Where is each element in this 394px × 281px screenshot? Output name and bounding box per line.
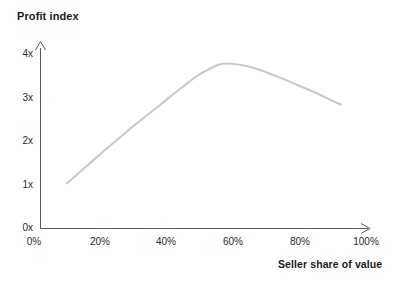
profit-curve — [67, 64, 341, 184]
x-tick-label-40: 40% — [156, 236, 176, 247]
x-axis-title: Seller share of value — [278, 258, 382, 270]
y-tick-label-4: 4x — [13, 48, 33, 59]
y-tick-label-3: 3x — [13, 91, 33, 102]
y-tick-label-1: 1x — [13, 178, 33, 189]
x-tick-label-0: 0% — [27, 236, 41, 247]
chart-container: Profit index 0x 1x 2x 3x 4x 0% 20% 40% 6… — [0, 0, 394, 281]
x-tick-label-20: 20% — [90, 236, 110, 247]
y-tick-label-0: 0x — [13, 222, 33, 233]
y-tick-label-2: 2x — [13, 135, 33, 146]
x-tick-label-80: 80% — [290, 236, 310, 247]
plot-area — [0, 0, 394, 281]
x-tick-label-60: 60% — [223, 236, 243, 247]
x-tick-label-100: 100% — [353, 236, 379, 247]
